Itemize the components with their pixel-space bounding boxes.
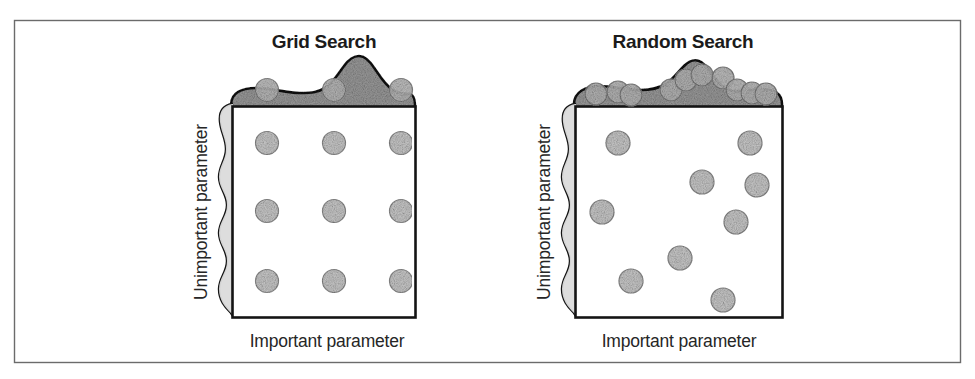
- random-y-axis-label: Unimportant parameter: [534, 124, 554, 300]
- sample-dot: [668, 246, 692, 270]
- sample-dot: [711, 288, 735, 312]
- sample-dot: [745, 173, 769, 197]
- marginal-dot: [256, 79, 279, 102]
- sample-dot: [690, 170, 714, 194]
- marginal-dot: [585, 83, 607, 105]
- grid-x-axis-label: Important parameter: [250, 331, 405, 351]
- marginal-dot: [620, 84, 642, 106]
- grid-vs-random-search-figure: Grid Search Important parameter Unimport…: [0, 0, 975, 379]
- sample-dot: [606, 131, 630, 155]
- sample-dot: [738, 131, 762, 155]
- sample-dot: [619, 269, 643, 293]
- marginal-dot: [323, 79, 346, 102]
- random-search-title: Random Search: [613, 31, 754, 52]
- sample-dot: [256, 200, 279, 223]
- sample-dot: [590, 200, 614, 224]
- grid-search-title: Grid Search: [272, 31, 376, 52]
- random-x-axis-label: Important parameter: [602, 331, 757, 351]
- sample-dot: [390, 200, 413, 223]
- sample-dot: [390, 132, 413, 155]
- grid-y-axis-label: Unimportant parameter: [191, 124, 211, 300]
- sample-dot: [323, 132, 346, 155]
- sample-dot: [390, 270, 413, 293]
- sample-dot: [323, 270, 346, 293]
- marginal-dot: [755, 83, 777, 105]
- marginal-dot: [390, 79, 413, 102]
- sample-dot: [256, 132, 279, 155]
- sample-dot: [323, 200, 346, 223]
- sample-dot: [256, 270, 279, 293]
- marginal-dot: [691, 64, 713, 86]
- sample-dot: [724, 210, 748, 234]
- figure-border: [15, 21, 961, 363]
- figure-container: Grid Search Important parameter Unimport…: [0, 0, 975, 379]
